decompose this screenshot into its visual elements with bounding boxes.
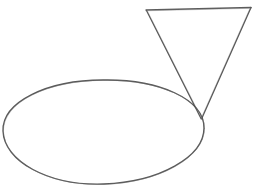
sketch-canvas	[0, 0, 258, 196]
sketch-drawing-surface	[0, 0, 258, 196]
canvas-background	[0, 0, 258, 196]
